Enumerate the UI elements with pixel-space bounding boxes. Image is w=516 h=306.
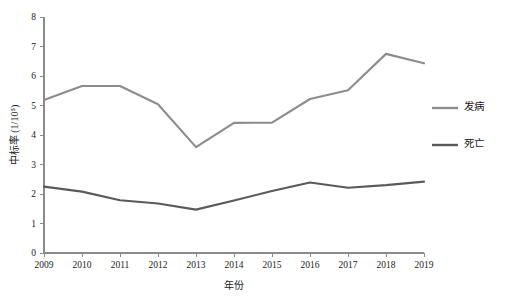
x-tick-label: 2018 — [377, 260, 396, 270]
x-tick-label: 2019 — [415, 260, 434, 270]
x-tick-label: 2014 — [225, 260, 244, 270]
x-tick-label: 2011 — [111, 260, 130, 270]
line-chart: 012345678 200920102011201220132014201520… — [0, 0, 516, 306]
series-line-mortality — [44, 182, 424, 210]
series-line-incidence — [44, 54, 424, 147]
chart-container: 012345678 200920102011201220132014201520… — [0, 0, 516, 306]
y-axis-title: 中标率 (1/10⁵) — [8, 105, 21, 165]
x-tick-label: 2012 — [149, 260, 168, 270]
y-tick-label: 4 — [31, 130, 36, 140]
x-tick-label: 2017 — [339, 260, 358, 270]
y-tick-label: 2 — [31, 189, 36, 199]
legend-label: 发病 — [464, 100, 485, 112]
y-axis: 012345678 — [31, 12, 44, 258]
y-tick-label: 5 — [31, 101, 36, 111]
x-axis-title: 年份 — [224, 279, 244, 291]
x-tick-label: 2009 — [35, 260, 54, 270]
x-tick-label: 2013 — [187, 260, 206, 270]
x-tick-label: 2015 — [263, 260, 282, 270]
y-tick-label: 0 — [31, 248, 36, 258]
x-tick-label: 2010 — [73, 260, 92, 270]
y-tick-label: 6 — [31, 71, 36, 81]
x-tick-label: 2016 — [301, 260, 320, 270]
x-axis: 2009201020112012201320142015201620172018… — [35, 253, 434, 270]
y-tick-label: 8 — [31, 12, 36, 22]
legend-label: 死亡 — [464, 137, 484, 149]
chart-legend: 发病死亡 — [432, 100, 485, 149]
y-tick-label: 3 — [31, 160, 36, 170]
plot-area — [44, 54, 424, 210]
y-tick-label: 7 — [31, 42, 36, 52]
y-tick-label: 1 — [31, 219, 36, 229]
